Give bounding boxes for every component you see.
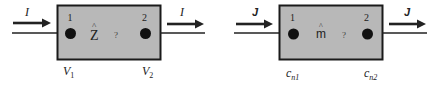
- port-2-label: 2: [142, 12, 147, 23]
- impedance-diagram: I 1 2 ^ Z ? I V1 V2: [12, 5, 205, 80]
- mass-transfer-diagram: J 1 2 ^ m ? J cn1 cn2: [234, 6, 427, 83]
- port-2-label: 2: [364, 12, 369, 23]
- port-1-label: 1: [68, 12, 73, 23]
- output-flow-arrow-icon: [167, 20, 204, 29]
- port-2-node: [140, 28, 151, 39]
- node-1-label: cn1: [286, 66, 299, 82]
- operator-symbol: Z: [90, 28, 99, 43]
- input-flow-arrow-icon: [236, 20, 273, 29]
- output-flow-label: I: [179, 5, 185, 19]
- unknown-question-mark: ?: [114, 30, 118, 40]
- node-1-label: V1: [63, 64, 74, 80]
- output-flow-arrow-icon: [389, 20, 426, 29]
- unknown-question-mark: ?: [342, 30, 346, 40]
- port-1-label: 1: [290, 12, 295, 23]
- input-flow-arrow-icon: [13, 19, 51, 28]
- port-2-node: [362, 29, 373, 40]
- output-flow-label: J: [404, 6, 411, 18]
- input-flow-label: I: [24, 5, 30, 19]
- node-2-label: cn2: [364, 66, 377, 82]
- two-port-diagrams: I 1 2 ^ Z ? I V1 V2 J 1: [0, 0, 437, 86]
- port-1-node: [288, 29, 299, 40]
- operator-symbol: m: [316, 27, 326, 41]
- port-1-node: [65, 28, 76, 39]
- node-2-label: V2: [142, 64, 153, 80]
- input-flow-label: J: [252, 6, 259, 18]
